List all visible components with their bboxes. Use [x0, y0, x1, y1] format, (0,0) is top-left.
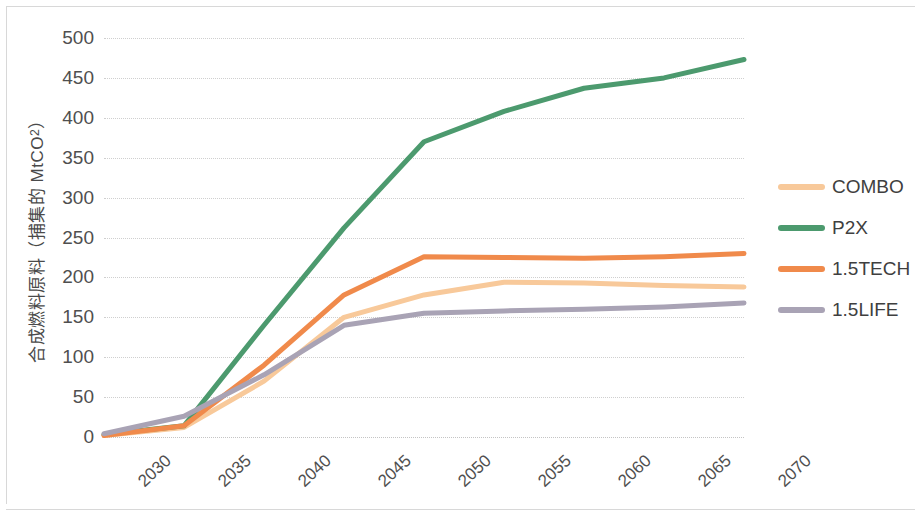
legend-item-combo[interactable]: COMBO: [778, 166, 918, 207]
y-axis-tick-label: 200: [62, 266, 94, 288]
x-axis-tick-label: 2055: [534, 451, 575, 491]
legend-item-p2x[interactable]: P2X: [778, 207, 918, 248]
x-axis-tick-label: 2070: [774, 451, 815, 491]
y-axis-tick-label: 50: [73, 386, 94, 408]
figure-border-bottom: [6, 509, 915, 510]
y-axis-title-subscript: 2: [28, 129, 42, 136]
legend-label: P2X: [832, 217, 868, 239]
x-axis-tick-label: 2065: [694, 451, 735, 491]
y-axis-tick-label: 450: [62, 67, 94, 89]
y-axis-tick-label: 300: [62, 187, 94, 209]
x-axis-tick-label: 2035: [214, 451, 255, 491]
figure-border-top: [6, 6, 915, 7]
legend-swatch-icon: [778, 307, 825, 313]
legend-label: 1.5TECH: [832, 258, 910, 280]
legend-swatch-icon: [778, 184, 825, 190]
y-axis-title-main: 合成燃料原料（捕集的 MtCO: [23, 136, 48, 363]
legend-swatch-icon: [778, 266, 825, 272]
series-line-p2x: [104, 60, 744, 435]
legend: COMBOP2X1.5TECH1.5LIFE: [778, 166, 918, 330]
legend-label: COMBO: [832, 176, 904, 198]
x-axis-tick-label: 2050: [454, 451, 495, 491]
legend-item-1.5tech[interactable]: 1.5TECH: [778, 248, 918, 289]
legend-swatch-icon: [778, 225, 825, 231]
y-axis-tick-label: 150: [62, 306, 94, 328]
figure-border-left: [6, 6, 7, 504]
y-axis-title: 合成燃料原料（捕集的 MtCO2）: [18, 12, 52, 462]
x-axis-tick-label: 2060: [614, 451, 655, 491]
y-axis-tick-label: 500: [62, 27, 94, 49]
y-axis-title-tail: ）: [23, 111, 48, 129]
y-axis-tick-label: 0: [83, 426, 94, 448]
plot-wrapper: 050100150200250300350400450500 203020352…: [104, 30, 744, 446]
series-layer: [104, 38, 744, 437]
line-chart-figure: 合成燃料原料（捕集的 MtCO2） 0501001502002503003504…: [0, 0, 921, 520]
legend-item-1.5life[interactable]: 1.5LIFE: [778, 289, 918, 330]
y-axis-tick-label: 100: [62, 346, 94, 368]
y-axis-tick-label: 400: [62, 107, 94, 129]
y-axis-tick-label: 350: [62, 147, 94, 169]
legend-label: 1.5LIFE: [832, 299, 899, 321]
plot-area: 050100150200250300350400450500 203020352…: [104, 38, 744, 437]
x-axis-tick-label: 2040: [294, 451, 335, 491]
y-axis-tick-label: 250: [62, 227, 94, 249]
gridline-0: [104, 437, 744, 438]
x-axis-tick-label: 2045: [374, 451, 415, 491]
x-axis-tick-label: 2030: [134, 451, 175, 491]
